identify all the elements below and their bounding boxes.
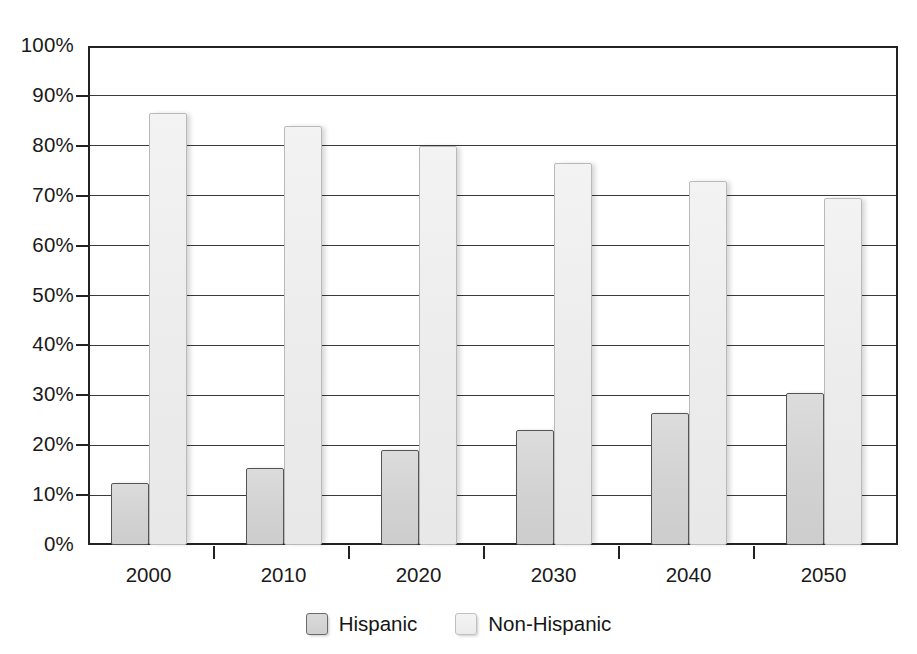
x-tick-label-2050: 2050	[764, 563, 884, 587]
bar-group-2050	[786, 46, 862, 545]
bar-non-hispanic-2010[interactable]	[284, 126, 322, 545]
x-tick-label-2000: 2000	[89, 563, 209, 587]
bar-group-2010	[246, 46, 322, 545]
bar-group-2030	[516, 46, 592, 545]
bar-non-hispanic-2000[interactable]	[149, 113, 187, 545]
x-tick-label-2030: 2030	[494, 563, 614, 587]
x-tick-label-2020: 2020	[359, 563, 479, 587]
x-tick-label-2040: 2040	[629, 563, 749, 587]
bar-group-2040	[651, 46, 727, 545]
bar-hispanic-2050[interactable]	[786, 393, 824, 545]
bar-non-hispanic-2030[interactable]	[554, 163, 592, 545]
bar-non-hispanic-2020[interactable]	[419, 146, 457, 545]
bar-group-2000	[111, 46, 187, 545]
bar-group-2020	[381, 46, 457, 545]
legend-swatch-hispanic	[306, 613, 328, 635]
bar-hispanic-2000[interactable]	[111, 483, 149, 545]
x-tick-mark-4	[618, 546, 620, 559]
bar-hispanic-2030[interactable]	[516, 430, 554, 545]
y-tick-label-70: 70%	[2, 183, 74, 207]
chart-legend: Hispanic Non-Hispanic	[0, 612, 917, 636]
legend-label-hispanic: Hispanic	[339, 612, 418, 636]
legend-item-hispanic[interactable]: Hispanic	[306, 612, 418, 636]
y-tick-label-40: 40%	[2, 332, 74, 356]
legend-item-non-hispanic[interactable]: Non-Hispanic	[455, 612, 611, 636]
y-tick-label-50: 50%	[2, 283, 74, 307]
x-tick-mark-3	[483, 546, 485, 559]
y-tick-label-20: 20%	[2, 432, 74, 456]
x-tick-mark-1	[213, 546, 215, 559]
y-tick-label-0: 0%	[2, 532, 74, 556]
y-axis: 0%10%20%30%40%50%60%70%80%90%100%	[0, 0, 88, 560]
y-tick-label-100: 100%	[2, 33, 74, 57]
y-tick-label-80: 80%	[2, 133, 74, 157]
y-tick-label-30: 30%	[2, 382, 74, 406]
x-tick-mark-2	[348, 546, 350, 559]
x-tick-mark-5	[753, 546, 755, 559]
legend-label-non-hispanic: Non-Hispanic	[488, 612, 611, 636]
bar-non-hispanic-2050[interactable]	[824, 198, 862, 545]
grouped-bar-chart: 0%10%20%30%40%50%60%70%80%90%100% 200020…	[0, 0, 917, 654]
bars-layer	[88, 46, 898, 545]
bar-non-hispanic-2040[interactable]	[689, 181, 727, 545]
bar-hispanic-2020[interactable]	[381, 450, 419, 545]
x-tick-label-2010: 2010	[224, 563, 344, 587]
y-tick-label-90: 90%	[2, 83, 74, 107]
bar-hispanic-2040[interactable]	[651, 413, 689, 545]
y-tick-label-10: 10%	[2, 482, 74, 506]
legend-swatch-non-hispanic	[455, 613, 477, 635]
bar-hispanic-2010[interactable]	[246, 468, 284, 545]
y-tick-label-60: 60%	[2, 233, 74, 257]
